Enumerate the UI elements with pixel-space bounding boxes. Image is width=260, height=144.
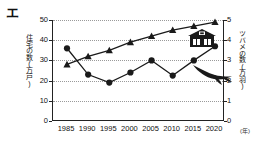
y-left-tickmark (49, 101, 52, 102)
y-right-tickmark (224, 81, 227, 82)
data-point (85, 71, 91, 77)
y-right-tickmark (224, 40, 227, 41)
option-label: エ (6, 6, 19, 19)
y-right-tick-label: 5 (227, 16, 243, 24)
data-point (64, 45, 70, 51)
y-left-tickmark (49, 60, 52, 61)
y-left-tickmark (49, 40, 52, 41)
y-left-tickmark (49, 81, 52, 82)
y-left-tickmark (49, 20, 52, 21)
y-left-tick-label: 20 (32, 77, 48, 85)
y-left-tick-label: 30 (32, 56, 48, 64)
y-left-tick-label: 50 (32, 16, 48, 24)
data-point (106, 80, 112, 86)
y-right-tick-label: 0 (227, 117, 243, 125)
data-point (127, 69, 133, 75)
y-right-tickmark (224, 101, 227, 102)
y-right-tick-label: 1 (227, 97, 243, 105)
y-right-tick-label: 2 (227, 77, 243, 85)
y-left-tick-label: 10 (32, 97, 48, 105)
x-axis-unit: (年) (240, 126, 250, 135)
data-point (148, 57, 154, 63)
data-point (170, 72, 176, 78)
y-right-tickmark (224, 20, 227, 21)
y-right-tick-label: 3 (227, 56, 243, 64)
plot-area (52, 20, 224, 121)
house-icon (187, 28, 217, 48)
data-point (211, 18, 218, 25)
y-left-tick-label: 0 (32, 117, 48, 125)
y-left-tick-label: 40 (32, 36, 48, 44)
y-right-tickmark (224, 121, 227, 122)
chart-root: エ 住宅の数(万戸) ツバメの数(万羽) 01020 (0, 0, 260, 144)
y-right-tick-label: 4 (227, 36, 243, 44)
y-left-tickmark (49, 121, 52, 122)
y-right-tickmark (224, 60, 227, 61)
x-tick-label: 2020 (199, 125, 229, 133)
